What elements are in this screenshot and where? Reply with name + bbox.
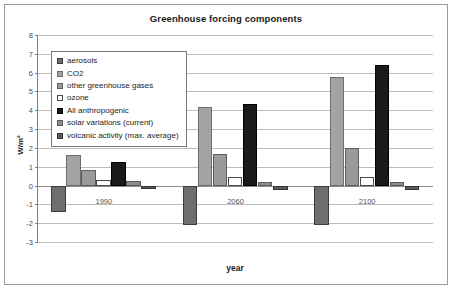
- gridline: [38, 242, 433, 243]
- legend-item-label: CO2: [67, 70, 83, 78]
- bar-other-greenhouse-gases: [81, 170, 95, 185]
- bar-group: 2100: [301, 35, 433, 242]
- legend-swatch-icon: [57, 95, 63, 101]
- x-tick-label: 2060: [170, 197, 302, 206]
- legend-item[interactable]: aerosols: [57, 55, 179, 67]
- bar-co2: [66, 155, 80, 185]
- chart-legend: aerosolsCO2other greenhouse gasesozoneAl…: [51, 51, 187, 147]
- legend-swatch-icon: [57, 108, 63, 114]
- bar-ozone: [96, 180, 110, 186]
- bar-all-anthropogenic: [111, 162, 125, 186]
- bar-group: 2060: [170, 35, 302, 242]
- y-tick-label: 6: [29, 68, 33, 77]
- legend-item-label: solar variations (current): [67, 119, 153, 127]
- legend-item[interactable]: volcanic activity (max. average): [57, 129, 179, 141]
- y-tick-label: 8: [29, 31, 33, 40]
- y-tick-label: 0: [29, 181, 33, 190]
- legend-item-label: aerosols: [67, 57, 97, 65]
- legend-swatch-icon: [57, 71, 63, 77]
- legend-item-label: other greenhouse gases: [67, 82, 153, 90]
- x-tick-label: 1990: [38, 197, 170, 206]
- legend-item-label: All anthropogenic: [67, 107, 129, 115]
- y-tick-label: 1: [29, 162, 33, 171]
- y-tick-label: 5: [29, 87, 33, 96]
- bar-volcanic-activity-max-average: [405, 186, 419, 191]
- bar-volcanic-activity-max-average: [273, 186, 287, 191]
- bar-co2: [330, 77, 344, 185]
- y-tick-mark: [35, 242, 38, 243]
- bar-solar-variations-current: [390, 182, 404, 185]
- bar-solar-variations-current: [126, 181, 140, 186]
- legend-swatch-icon: [57, 58, 63, 64]
- y-tick-label: 4: [29, 106, 33, 115]
- chart-frame: Greenhouse forcing components W/m² 87654…: [4, 4, 448, 285]
- bar-all-anthropogenic: [375, 65, 389, 185]
- y-tick-label: -3: [26, 238, 33, 247]
- bar-solar-variations-current: [258, 182, 272, 186]
- legend-item[interactable]: ozone: [57, 92, 179, 104]
- y-axis-title: W/m²: [16, 135, 25, 155]
- legend-swatch-icon: [57, 120, 63, 126]
- legend-item[interactable]: solar variations (current): [57, 117, 179, 129]
- y-tick-label: -2: [26, 219, 33, 228]
- legend-item[interactable]: other greenhouse gases: [57, 80, 179, 92]
- bar-co2: [198, 107, 212, 185]
- bar-ozone: [360, 177, 374, 185]
- legend-item-label: volcanic activity (max. average): [67, 132, 179, 140]
- chart-title: Greenhouse forcing components: [5, 13, 447, 24]
- bar-other-greenhouse-gases: [345, 148, 359, 186]
- legend-swatch-icon: [57, 133, 63, 139]
- x-axis-title: year: [37, 263, 433, 273]
- x-tick-label: 2100: [301, 197, 433, 206]
- bar-ozone: [228, 177, 242, 185]
- bar-all-anthropogenic: [243, 104, 257, 186]
- y-tick-label: 7: [29, 49, 33, 58]
- legend-item-label: ozone: [67, 94, 89, 102]
- legend-swatch-icon: [57, 83, 63, 89]
- y-tick-label: 2: [29, 143, 33, 152]
- legend-item[interactable]: CO2: [57, 67, 179, 79]
- bar-other-greenhouse-gases: [213, 154, 227, 185]
- bar-volcanic-activity-max-average: [141, 186, 155, 190]
- y-tick-label: 3: [29, 125, 33, 134]
- y-tick-label: -1: [26, 200, 33, 209]
- legend-item[interactable]: All anthropogenic: [57, 105, 179, 117]
